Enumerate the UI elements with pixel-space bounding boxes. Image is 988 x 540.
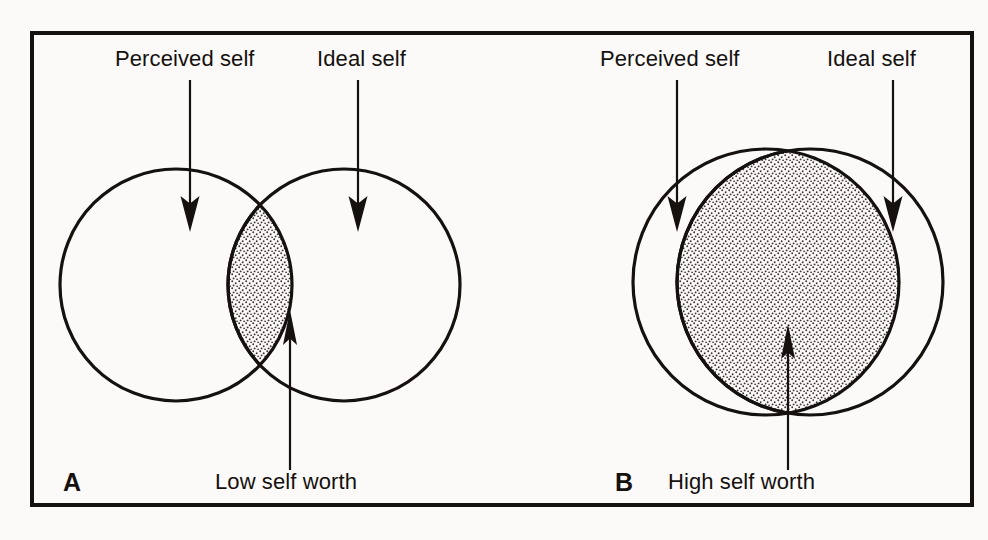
venn-figure: Perceived self Ideal self Low self worth… [0,0,988,540]
label-perceived-self-b: Perceived self [600,46,740,71]
figure-page: Perceived self Ideal self Low self worth… [0,0,988,540]
pointer-perceived-self-a [181,80,200,232]
label-ideal-self-a: Ideal self [317,46,407,71]
panel-letter-b: B [615,468,633,496]
label-perceived-self-a: Perceived self [115,46,255,71]
panel-letter-a: A [63,468,81,496]
pointer-ideal-self-a [349,80,368,232]
pointer-perceived-self-b [668,80,687,232]
pointer-ideal-self-b [884,80,903,232]
label-self-worth-b: High self worth [668,469,815,494]
label-self-worth-a: Low self worth [215,469,357,494]
panel-b: Perceived self Ideal self High self wort… [600,46,943,496]
label-ideal-self-b: Ideal self [827,46,917,71]
panel-a: Perceived self Ideal self Low self worth… [60,46,460,496]
